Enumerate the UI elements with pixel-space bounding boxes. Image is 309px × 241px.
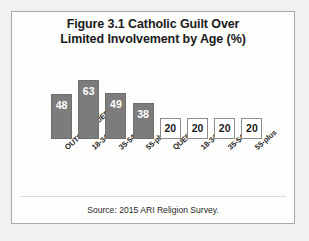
value-box-5: 20	[187, 118, 208, 139]
bar-1: 63	[78, 80, 99, 139]
bar-value-label-2: 49	[106, 98, 125, 110]
box-value-label-6: 20	[215, 122, 234, 134]
bar-2: 49	[105, 93, 126, 139]
value-box-6: 20	[214, 118, 235, 139]
bar-value-label-1: 63	[79, 85, 98, 97]
box-value-label-7: 20	[242, 122, 261, 134]
bar-0: 48	[51, 94, 72, 139]
figure-panel: Figure 3.1 Catholic Guilt Over Limited I…	[11, 11, 295, 224]
source-divider	[20, 196, 286, 197]
source-note: Source: 2015 ARI Religion Survey.	[12, 205, 294, 215]
value-box-4: 20	[160, 118, 181, 139]
box-value-label-4: 20	[161, 122, 180, 134]
bar-value-label-0: 48	[52, 99, 71, 111]
plot-area: 48OUTSIDE QUEBEC6318-344935-543855-plus2…	[12, 12, 294, 223]
value-box-7: 20	[241, 118, 262, 139]
bar-3: 38	[133, 103, 154, 139]
bar-value-label-3: 38	[134, 108, 153, 120]
box-value-label-5: 20	[188, 122, 207, 134]
